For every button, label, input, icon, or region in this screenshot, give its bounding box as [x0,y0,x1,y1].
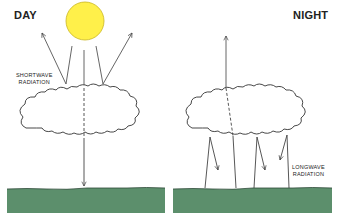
incoming-ray-right [96,46,103,84]
sun-icon [66,2,104,40]
back-radiation-arrow-1 [210,137,218,170]
ground-night [173,188,332,214]
cloud-icon-night [186,84,305,134]
night-panel [173,36,332,213]
night-title: NIGHT [293,9,328,21]
day-panel [7,2,165,213]
ground-day [7,188,165,214]
radiation-diagram [0,0,339,219]
incoming-ray-left [66,46,72,84]
reflected-arrow-right [103,33,132,84]
shortwave-label: SHORTWAVE RADIATION [16,72,53,86]
day-title: DAY [14,9,37,21]
longwave-label: LONGWAVE RADIATION [292,164,325,178]
cloud-icon [20,84,139,134]
back-radiation-arrow-3 [280,135,287,160]
back-radiation-arrow-2 [257,137,265,170]
